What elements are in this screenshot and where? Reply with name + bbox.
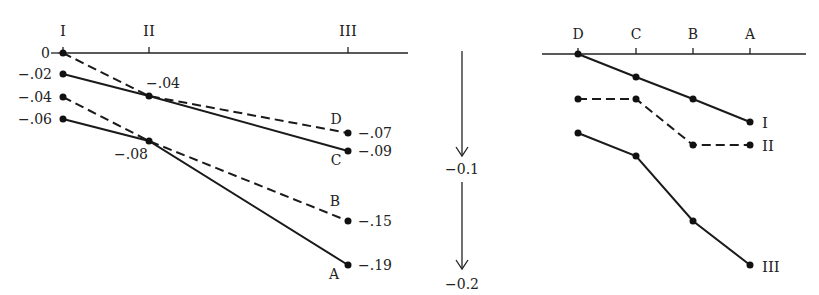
data-point: [60, 50, 67, 57]
axis-label-a: A: [744, 26, 756, 42]
data-point: [60, 94, 67, 101]
data-point: [345, 148, 352, 155]
scale-indicator: −0.1 −0.2: [445, 51, 479, 292]
data-point: [747, 142, 754, 149]
axis-label-iii: III: [339, 22, 357, 40]
data-point: [345, 130, 352, 137]
data-point: [60, 116, 67, 123]
data-point: [146, 138, 153, 145]
scale-label-0-1: −0.1: [445, 161, 479, 177]
data-point: [690, 96, 697, 103]
data-point: [146, 93, 153, 100]
series-i-line: [578, 54, 750, 122]
value-label: −.09: [358, 143, 392, 159]
data-point: [633, 153, 640, 160]
scale-label-0-2: −0.2: [445, 276, 479, 292]
data-point: [633, 74, 640, 81]
data-point: [747, 119, 754, 126]
data-point: [690, 142, 697, 149]
right-panel: D C B A I II III: [542, 26, 806, 276]
series-ii-line: [578, 99, 750, 145]
series-label-c: C: [331, 152, 342, 168]
data-point: [575, 96, 582, 103]
value-label: −.08: [114, 146, 148, 162]
left-panel: I II III 0 −.02 −.04 −.06 −.04 −.08 −.07…: [18, 22, 408, 282]
data-point: [345, 218, 352, 225]
diagram-canvas: I II III 0 −.02 −.04 −.06 −.04 −.08 −.07…: [0, 0, 819, 295]
axis-label-c: C: [631, 26, 642, 42]
data-point: [690, 218, 697, 225]
data-point: [575, 130, 582, 137]
series-c-line: [63, 74, 348, 151]
value-label: −.02: [18, 66, 52, 82]
series-label-b: B: [330, 193, 340, 209]
series-d-line: [63, 53, 348, 133]
value-label: −.19: [358, 257, 392, 273]
axis-label-d: D: [572, 26, 583, 42]
series-label-a: A: [328, 266, 340, 282]
series-a-line: [63, 119, 348, 265]
axis-label-ii: II: [143, 22, 155, 40]
data-point: [60, 71, 67, 78]
axis-label-i: I: [60, 22, 66, 40]
value-label: −.06: [18, 111, 52, 127]
series-label-iii: III: [762, 258, 780, 276]
value-label: −.04: [146, 75, 180, 91]
series-label-d: D: [330, 111, 341, 127]
series-iii-line: [578, 133, 750, 265]
series-label-ii: II: [762, 137, 774, 155]
data-point: [747, 262, 754, 269]
value-label: −.07: [358, 125, 392, 141]
series-b-line: [63, 97, 348, 221]
axis-label-b: B: [688, 26, 698, 42]
data-point: [633, 96, 640, 103]
data-point: [345, 262, 352, 269]
value-label: −.15: [358, 213, 392, 229]
value-label: −.04: [18, 89, 52, 105]
value-label-zero: 0: [41, 45, 50, 61]
series-label-i: I: [762, 114, 768, 132]
data-point: [575, 51, 582, 58]
